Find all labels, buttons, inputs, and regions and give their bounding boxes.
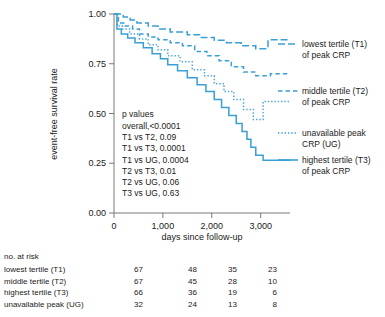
y-axis: 0.000.250.500.751.00 event-free survival…: [49, 9, 114, 218]
legend-label-line2: of peak CRP: [302, 166, 351, 176]
y-tick-label: 0.25: [88, 158, 106, 168]
legend-label-line2: of peak CRP: [302, 50, 351, 60]
legend-label: lowest tertile (T1): [302, 39, 367, 49]
risk-row-value: 24: [188, 300, 197, 309]
risk-row-value: 32: [134, 300, 143, 309]
p-values-heading: p values: [122, 109, 154, 119]
risk-row-value: 66: [134, 288, 143, 297]
y-tick-label: 0.00: [88, 208, 106, 218]
legend-label: highest tertile (T3): [302, 155, 371, 165]
risk-table-title: no. at risk: [4, 252, 40, 261]
risk-row-value: 6: [273, 288, 278, 297]
risk-row-value: 28: [228, 277, 237, 286]
kaplan-meier-figure: 0.000.250.500.751.00 event-free survival…: [0, 0, 385, 317]
risk-row-value: 48: [188, 265, 197, 274]
p-values-block: p valuesoverall,<0.0001T1 vs T2, 0.09T1 …: [122, 109, 189, 198]
x-tick-marks: [114, 213, 261, 218]
p-value-line: overall,<0.0001: [122, 121, 181, 131]
risk-row-value: 45: [188, 277, 197, 286]
p-value-line: T3 vs UG, 0.63: [122, 188, 179, 198]
p-value-line: T2 vs UG, 0.06: [122, 177, 179, 187]
risk-row-value: 67: [134, 265, 143, 274]
risk-row-value: 67: [134, 277, 143, 286]
legend-label-line2: CRP (UG): [302, 139, 341, 149]
risk-row-value: 19: [228, 288, 237, 297]
y-tick-labels: 0.000.250.500.751.00: [88, 9, 106, 218]
x-axis-title: days since follow-up: [161, 232, 242, 242]
chart-svg: 0.000.250.500.751.00 event-free survival…: [0, 0, 385, 317]
p-value-line: T1 vs T3, 0.0001: [122, 143, 186, 153]
x-tick-label: 3,000: [249, 221, 272, 231]
legend-label-line2: of peak CRP: [302, 97, 351, 107]
x-tick-label: 2,000: [201, 221, 224, 231]
x-tick-label: 0: [111, 221, 116, 231]
p-value-line: T1 vs UG, 0.0004: [122, 155, 189, 165]
risk-table-rows: lowest tertile (T1)67483523middle tertil…: [4, 265, 278, 309]
risk-row-label: middle tertile (T2): [4, 277, 67, 286]
y-tick-marks: [109, 14, 114, 213]
risk-row-value: 8: [273, 300, 278, 309]
risk-table: no. at risk lowest tertile (T1)67483523m…: [4, 252, 278, 309]
x-tick-labels: 01,0002,0003,000: [111, 221, 271, 231]
risk-row-value: 10: [268, 277, 277, 286]
y-tick-label: 1.00: [88, 9, 106, 19]
x-tick-label: 1,000: [152, 221, 175, 231]
p-value-line: T2 vs T3, 0.01: [122, 166, 176, 176]
risk-row-label: highest tertile (T3): [4, 288, 69, 297]
p-value-line: T1 vs T2, 0.09: [122, 132, 176, 142]
risk-row-value: 23: [268, 265, 277, 274]
y-tick-label: 0.50: [88, 109, 106, 119]
risk-row-label: unavailable peak (UG): [4, 300, 84, 309]
y-axis-title: event-free survival rate: [49, 68, 59, 160]
risk-row-value: 35: [228, 265, 237, 274]
risk-row-value: 13: [228, 300, 237, 309]
chart-legend: lowest tertile (T1)of peak CRPmiddle ter…: [278, 39, 371, 176]
legend-label: middle tertile (T2): [302, 86, 368, 96]
legend-label: unavailable peak: [302, 128, 367, 138]
risk-row-label: lowest tertile (T1): [4, 265, 66, 274]
y-tick-label: 0.75: [88, 59, 106, 69]
survival-curve-ug: [114, 14, 290, 119]
x-axis: 01,0002,0003,000 days since follow-up: [111, 213, 290, 242]
risk-row-value: 36: [188, 288, 197, 297]
